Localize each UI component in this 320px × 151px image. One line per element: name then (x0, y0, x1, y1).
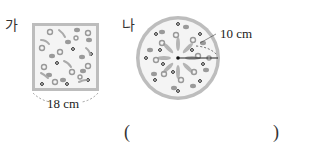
answer-paren-open: ( (124, 122, 130, 143)
answer-paren-close: ) (273, 122, 279, 143)
round-pizza-figure (136, 16, 220, 100)
square-pizza-figure (32, 23, 99, 102)
square-side-length: 18 cm (47, 96, 79, 112)
answer-blank[interactable] (136, 124, 270, 142)
circle-radius-length: 10 cm (220, 26, 252, 42)
